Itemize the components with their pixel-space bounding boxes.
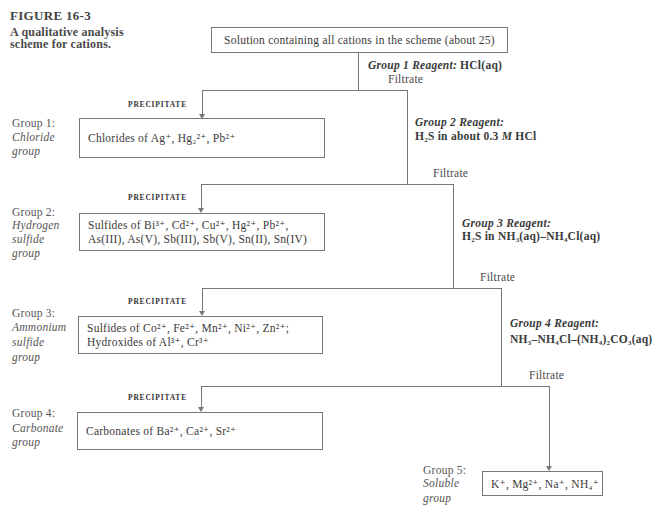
precipitate-arrow-1 xyxy=(202,90,203,114)
formula-part: H₂S in about 0.3 xyxy=(415,130,502,142)
start-solution-box: Solution containing all cations in the s… xyxy=(211,27,508,53)
figure-number: FIGURE 16-3 xyxy=(10,8,91,24)
filtrate-label-2: Filtrate xyxy=(433,166,468,180)
connector-line xyxy=(202,90,408,91)
connector-line xyxy=(202,288,502,289)
group-3-name: sulfide xyxy=(12,335,44,349)
group-4-reagent-formula: NH₃–NH₄Cl–(NH₄)₂CO₃(aq) xyxy=(510,332,652,346)
filtrate-line-2 xyxy=(453,184,454,288)
group-1-name: group xyxy=(12,144,40,158)
group-4-name: Carbonate xyxy=(12,421,63,435)
precipitate-arrow-3 xyxy=(202,288,203,311)
box-line: K⁺, Mg²⁺, Na⁺, NH₄⁺ xyxy=(491,477,594,491)
group-3-name: group xyxy=(12,350,40,364)
filtrate-line-1 xyxy=(407,90,408,184)
precipitate-arrow-2 xyxy=(201,184,202,208)
group-4-reagent-title: Group 4 Reagent: xyxy=(510,316,599,330)
group-3-reagent-formula: H₂S in NH₃(aq)–NH₄Cl(aq) xyxy=(462,229,600,243)
connector-line xyxy=(201,184,454,185)
connector-line xyxy=(358,53,359,90)
filtrate-label-3: Filtrate xyxy=(480,270,515,284)
group-4-name: group xyxy=(12,435,40,449)
reagent-formula: HCl(aq) xyxy=(460,59,502,71)
reagent-title: Group 1 Reagent: xyxy=(368,59,457,71)
precipitate-label-2: PRECIPITATE xyxy=(128,193,187,203)
group-3-label: Group 3: xyxy=(12,306,55,320)
box-line: Hydroxides of Al³⁺, Cr³⁺ xyxy=(87,335,314,349)
filtrate-label-1: Filtrate xyxy=(388,72,423,86)
group-1-reagent: Group 1 Reagent: HCl(aq) xyxy=(368,58,502,72)
precipitate-label-3: PRECIPITATE xyxy=(128,297,187,307)
filtrate-line-3 xyxy=(501,288,502,386)
group-5-label: Group 5: xyxy=(423,463,466,477)
box-line: As(III), As(V), Sb(III), Sb(V), Sn(II), … xyxy=(88,232,316,246)
filtrate-label-4: Filtrate xyxy=(529,368,564,382)
group-2-label: Group 2: xyxy=(12,205,55,219)
precipitate-label-4: PRECIPITATE xyxy=(128,393,187,403)
group-1-precipitate-box: Chlorides of Ag⁺, Hg₂²⁺, Pb²⁺ xyxy=(79,118,325,158)
box-line: Sulfides of Co²⁺, Fe²⁺, Mn²⁺, Ni²⁺, Zn²⁺… xyxy=(87,321,314,335)
box-line: Chlorides of Ag⁺, Hg₂²⁺, Pb²⁺ xyxy=(88,131,316,145)
group-5-name: Soluble xyxy=(423,476,459,490)
group-1-name: Chloride xyxy=(12,130,55,144)
group-4-precipitate-box: Carbonates of Ba²⁺, Ca²⁺, Sr²⁺ xyxy=(77,412,323,450)
group-3-precipitate-box: Sulfides of Co²⁺, Fe²⁺, Mn²⁺, Ni²⁺, Zn²⁺… xyxy=(78,316,323,354)
formula-part: HCl xyxy=(512,130,536,142)
box-line: Sulfides of Bi³⁺, Cd²⁺, Cu²⁺, Hg²⁺, Pb²⁺… xyxy=(88,218,316,232)
group-5-soluble-box: K⁺, Mg²⁺, Na⁺, NH₄⁺ xyxy=(482,471,603,496)
group-2-name: Hydrogen xyxy=(12,218,60,232)
formula-part-italic: M xyxy=(502,130,512,142)
group-2-reagent-title: Group 2 Reagent: xyxy=(415,115,504,129)
figure-caption-line-2: scheme for cations. xyxy=(10,38,111,50)
group-5-name: group xyxy=(423,491,451,505)
group-3-reagent-title: Group 3 Reagent: xyxy=(462,216,551,230)
group-3-name: Ammonium xyxy=(12,320,66,334)
precipitate-arrow-4 xyxy=(201,386,202,407)
start-solution-text: Solution containing all cations in the s… xyxy=(224,33,495,47)
precipitate-label-1: PRECIPITATE xyxy=(128,100,187,110)
filtrate-arrow-5 xyxy=(549,386,550,466)
group-2-name: sulfide xyxy=(12,232,44,246)
group-2-name: group xyxy=(12,246,40,260)
group-2-precipitate-box: Sulfides of Bi³⁺, Cd²⁺, Cu²⁺, Hg²⁺, Pb²⁺… xyxy=(79,213,325,251)
group-4-label: Group 4: xyxy=(12,406,55,420)
group-1-label: Group 1: xyxy=(12,116,55,130)
group-2-reagent-formula: H₂S in about 0.3 M HCl xyxy=(415,129,536,143)
connector-line xyxy=(201,386,550,387)
box-line: Carbonates of Ba²⁺, Ca²⁺, Sr²⁺ xyxy=(86,424,314,438)
